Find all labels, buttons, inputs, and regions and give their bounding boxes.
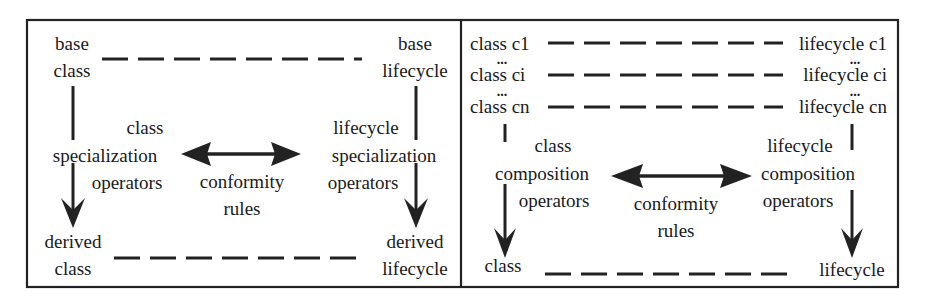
class-ops-label-2: specialization [53, 145, 158, 166]
class-ops-label-1: class [535, 135, 572, 156]
base-class-label-2: class [54, 60, 91, 81]
lifecycle-ci-label: lifecycle ci [803, 64, 887, 85]
lifecycle-ops-label-2: specialization [332, 145, 437, 166]
class-cn-label: class cn [470, 96, 530, 117]
class-ops-label-3: operators [519, 190, 590, 211]
left-panel: base class base lifecycle class speciali… [45, 33, 448, 279]
result-lifecycle-label: lifecycle [819, 259, 884, 280]
lifecycle-ops-label-1: lifecycle [767, 135, 832, 156]
left-arrowhead-icon [611, 164, 643, 188]
lifecycle-c1-label: lifecycle c1 [799, 33, 887, 54]
conformity-label-2: rules [658, 220, 695, 241]
right-arrowhead-icon [720, 164, 752, 188]
lifecycle-ops-label-3: operators [328, 172, 399, 193]
lifecycle-ops-label-3: operators [763, 190, 834, 211]
lifecycle-ops-label-2: composition [761, 163, 855, 184]
derived-lifecycle-label-1: derived [387, 231, 444, 252]
class-c1-label: class c1 [470, 33, 530, 54]
base-lifecycle-label-1: base [398, 33, 432, 54]
left-arrowhead-icon [181, 142, 211, 166]
right-arrowhead-icon [271, 142, 301, 166]
lifecycle-cn-label: lifecycle cn [799, 96, 888, 117]
right-panel: class c1 ... class ci ... class cn lifec… [470, 33, 887, 280]
conformity-label-1: conformity [634, 193, 719, 214]
base-lifecycle-label-2: lifecycle [382, 60, 447, 81]
derived-class-label-2: class [55, 258, 92, 279]
class-ops-label-3: operators [92, 172, 163, 193]
derived-lifecycle-label-2: lifecycle [382, 258, 447, 279]
derived-class-label-1: derived [45, 231, 102, 252]
lifecycle-ops-label-1: lifecycle [333, 117, 398, 138]
conformity-label-2: rules [224, 198, 261, 219]
result-class-label: class [485, 255, 522, 276]
class-ops-label-1: class [127, 117, 164, 138]
conformity-label-1: conformity [200, 171, 285, 192]
class-ci-label: class ci [470, 64, 525, 85]
diagram-canvas: base class base lifecycle class speciali… [0, 0, 932, 308]
class-ops-label-2: composition [495, 163, 589, 184]
base-class-label-1: base [55, 33, 89, 54]
